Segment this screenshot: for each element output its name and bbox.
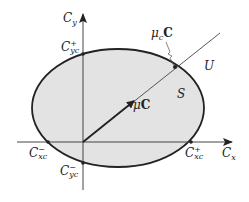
x-axis-label: Cx	[222, 147, 236, 159]
safe-region-label: S	[177, 88, 185, 100]
cxc-minus-label: C−xc	[29, 146, 47, 160]
y-axis-label: Cy	[63, 12, 77, 24]
cyc-plus-label: C+yc	[61, 40, 79, 54]
cyc-minus-label: C−yc	[60, 164, 78, 178]
diagram-canvas: Cy Cx C+yc C−yc C−xc C+xc U S μcC μC	[0, 0, 249, 202]
cxc-minus-point	[46, 140, 50, 144]
diagram-graphics	[0, 0, 249, 202]
cyc-plus-point	[81, 52, 85, 56]
cyc-minus-point	[81, 161, 85, 165]
cxc-plus-point	[189, 140, 193, 144]
cxc-plus-label: C+xc	[185, 146, 203, 160]
mu-C-label: μC	[133, 99, 150, 111]
unsafe-region-label: U	[204, 60, 214, 72]
mu-c-C-label: μcC	[151, 27, 173, 39]
